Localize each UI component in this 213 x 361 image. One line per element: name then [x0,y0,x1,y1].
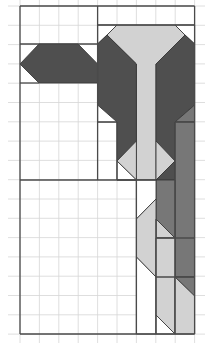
right-medium-column [175,122,195,277]
quilt-canvas [0,0,213,361]
quilt-diagram: Quilt block pattern diagram [0,0,213,361]
left-arrow-hexagon [20,44,98,83]
